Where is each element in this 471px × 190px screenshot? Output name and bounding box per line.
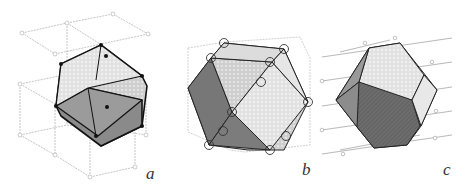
panel-label-a: a — [146, 164, 155, 184]
panel-label-c: c — [443, 160, 451, 180]
panel-label-b: b — [302, 160, 311, 180]
panel-c-polyhedron — [336, 43, 437, 148]
figure-canvas — [0, 0, 471, 190]
panel-a-polyhedron — [56, 45, 147, 146]
